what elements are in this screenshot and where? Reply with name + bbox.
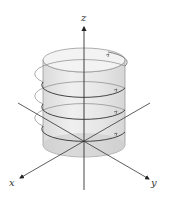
z-axis-label: z: [80, 12, 87, 23]
helix-cylinder-diagram: z x y: [0, 0, 169, 208]
y-axis-label: y: [150, 177, 157, 188]
axes-front: [18, 27, 150, 190]
x-axis-label: x: [9, 177, 15, 188]
